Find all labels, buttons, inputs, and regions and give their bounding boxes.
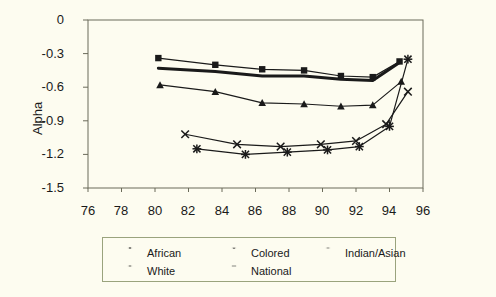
legend-label-white: White (147, 265, 175, 277)
chart-figure: Alpha 0 -0.3 -0.6 -0.9 -1.2 -1.5 76 78 8… (0, 0, 496, 297)
triangle-marker-icon (221, 247, 247, 249)
legend-label-national: National (251, 265, 291, 277)
legend-label-african: African (147, 247, 181, 259)
series-national (158, 63, 399, 81)
star-marker-icon (117, 265, 143, 267)
legend-label-indian-asian: Indian/Asian (345, 247, 406, 259)
square-marker-icon (117, 247, 143, 249)
cross-marker-icon (315, 247, 341, 249)
series-colored (156, 78, 405, 110)
series-indian-asian (181, 88, 411, 150)
legend: African Colored Indian/Asian (102, 237, 396, 282)
series-layer (155, 55, 412, 159)
thick-line-marker-icon (221, 265, 247, 267)
legend-label-colored: Colored (251, 247, 290, 259)
